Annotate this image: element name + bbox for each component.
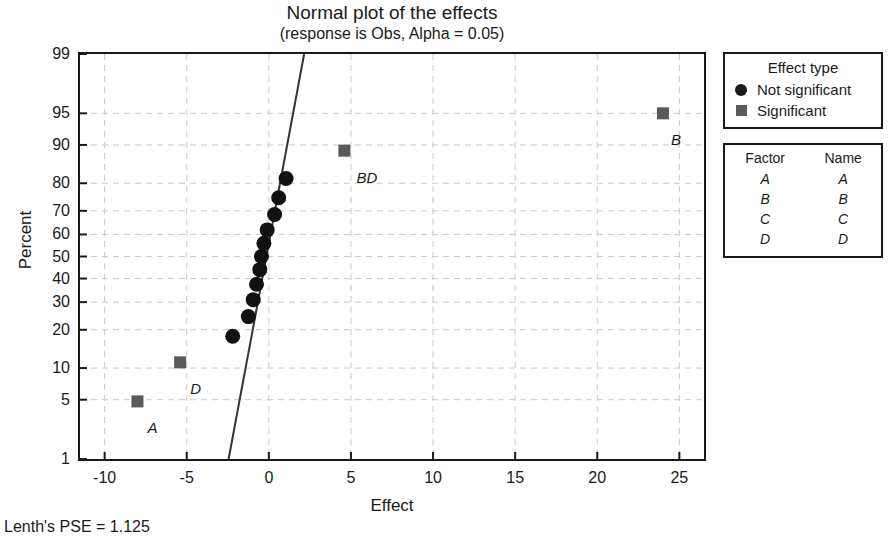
x-axis-tick-labels: -10-50510152025 bbox=[78, 470, 706, 490]
legend-effect-type: Effect type Not significant Significant bbox=[723, 52, 883, 129]
table-row: BB bbox=[725, 189, 881, 209]
cell-name: B bbox=[805, 189, 881, 209]
data-point-not-significant[interactable] bbox=[252, 262, 267, 277]
data-point-label: BD bbox=[356, 169, 377, 186]
table-row: DD bbox=[725, 229, 881, 249]
data-point-significant[interactable] bbox=[131, 395, 143, 407]
legend-effect-type-title: Effect type bbox=[733, 59, 873, 76]
data-point-not-significant[interactable] bbox=[249, 277, 264, 292]
y-axis-tick-label: 50 bbox=[52, 249, 70, 265]
legend-factor-table: Factor Name AABBCCDD bbox=[723, 143, 883, 258]
data-point-label: D bbox=[190, 380, 201, 397]
x-axis-tick-label: 25 bbox=[670, 470, 688, 486]
column-header-name: Name bbox=[805, 150, 881, 169]
y-axis-title: Percent bbox=[16, 190, 36, 290]
cell-name: D bbox=[805, 229, 881, 249]
y-axis-tick-label: 1 bbox=[61, 451, 70, 467]
cell-factor: D bbox=[725, 229, 805, 249]
legend-item-label: Not significant bbox=[757, 81, 851, 98]
data-point-not-significant[interactable] bbox=[267, 207, 282, 222]
circle-marker-icon bbox=[733, 84, 749, 96]
data-point-not-significant[interactable] bbox=[271, 190, 286, 205]
data-point-label: B bbox=[671, 131, 681, 148]
y-axis-tick-label: 90 bbox=[52, 137, 70, 153]
data-point-significant[interactable] bbox=[338, 145, 350, 157]
normal-plot-figure: Normal plot of the effects (response is … bbox=[0, 0, 895, 542]
cell-factor: B bbox=[725, 189, 805, 209]
lenths-pse-note: Lenth's PSE = 1.125 bbox=[4, 518, 150, 536]
data-point-significant[interactable] bbox=[174, 356, 186, 368]
cell-factor: A bbox=[725, 169, 805, 189]
plot-area: ADBDB bbox=[78, 52, 706, 461]
cell-factor: C bbox=[725, 209, 805, 229]
square-marker-icon bbox=[733, 105, 749, 116]
y-axis-tick-label: 70 bbox=[52, 203, 70, 219]
chart-subtitle: (response is Obs, Alpha = 0.05) bbox=[78, 24, 706, 44]
data-point-significant[interactable] bbox=[657, 107, 669, 119]
data-point-not-significant[interactable] bbox=[279, 171, 294, 186]
legend-item-label: Significant bbox=[757, 102, 826, 119]
table-row: CC bbox=[725, 209, 881, 229]
x-axis-tick-label: 15 bbox=[506, 470, 524, 486]
y-axis-tick-label: 40 bbox=[52, 271, 70, 287]
legend-item-not-significant: Not significant bbox=[733, 79, 873, 100]
x-axis-tick-label: -10 bbox=[93, 470, 116, 486]
x-axis-tick-label: 5 bbox=[346, 470, 355, 486]
cell-name: A bbox=[805, 169, 881, 189]
x-axis-tick-label: 20 bbox=[588, 470, 606, 486]
data-point-not-significant[interactable] bbox=[256, 236, 271, 251]
data-point-not-significant[interactable] bbox=[260, 222, 275, 237]
y-axis-tick-label: 30 bbox=[52, 294, 70, 310]
y-axis-tick-label: 99 bbox=[52, 46, 70, 62]
y-axis-tick-label: 10 bbox=[52, 360, 70, 376]
data-point-not-significant[interactable] bbox=[241, 309, 256, 324]
y-axis-tick-labels: 151020304050607080909599 bbox=[30, 52, 70, 461]
data-point-label: A bbox=[147, 419, 157, 436]
x-axis-tick-label: 10 bbox=[424, 470, 442, 486]
x-axis-title: Effect bbox=[78, 496, 706, 516]
y-axis-tick-label: 80 bbox=[52, 175, 70, 191]
chart-title-block: Normal plot of the effects (response is … bbox=[78, 2, 706, 44]
plot-canvas bbox=[80, 54, 704, 459]
table-header-row: Factor Name bbox=[725, 150, 881, 169]
y-axis-tick-label: 60 bbox=[52, 226, 70, 242]
x-axis-tick-label: -5 bbox=[180, 470, 194, 486]
cell-name: C bbox=[805, 209, 881, 229]
legend-item-significant: Significant bbox=[733, 100, 873, 121]
page-title: Normal plot of the effects bbox=[78, 2, 706, 24]
data-point-not-significant[interactable] bbox=[246, 292, 261, 307]
data-point-not-significant[interactable] bbox=[225, 329, 240, 344]
column-header-factor: Factor bbox=[725, 150, 805, 169]
x-axis-tick-label: 0 bbox=[264, 470, 273, 486]
y-axis-tick-label: 95 bbox=[52, 105, 70, 121]
y-axis-tick-label: 5 bbox=[61, 392, 70, 408]
data-point-not-significant[interactable] bbox=[254, 249, 269, 264]
y-axis-tick-label: 20 bbox=[52, 322, 70, 338]
table-row: AA bbox=[725, 169, 881, 189]
factor-name-table: Factor Name AABBCCDD bbox=[725, 150, 881, 249]
